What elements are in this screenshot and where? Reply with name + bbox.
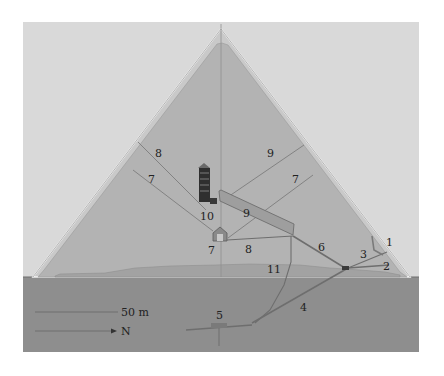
label-9-grand-gallery: 9	[243, 207, 250, 220]
label-7-left: 7	[148, 173, 155, 186]
label-8-horizontal-passage: 8	[245, 243, 252, 256]
label-7-queens-chamber: 7	[208, 244, 215, 257]
scale-bar-label: 50 m	[121, 306, 149, 319]
label-5-subterranean-chamber: 5	[216, 309, 223, 322]
label-2-passage: 2	[383, 260, 390, 273]
label-10-kings-chamber: 10	[200, 210, 214, 223]
label-4-descending-passage: 4	[300, 301, 307, 314]
label-11-well-shaft: 11	[267, 263, 281, 276]
north-label: N	[121, 325, 131, 338]
label-10-left: 8	[155, 147, 162, 160]
label-1-entrance: 1	[386, 236, 393, 249]
passage-junction	[342, 266, 349, 270]
label-10-right: 9	[267, 147, 274, 160]
label-6-ascending-passage: 6	[318, 241, 325, 254]
label-3-robbers-tunnel: 3	[360, 248, 367, 261]
pyramid-cross-section-diagram: 8 9 7 7 10 9 7 8 6 3 1 2 11 4 5 50 m N	[0, 0, 444, 376]
label-7-right: 7	[292, 173, 299, 186]
